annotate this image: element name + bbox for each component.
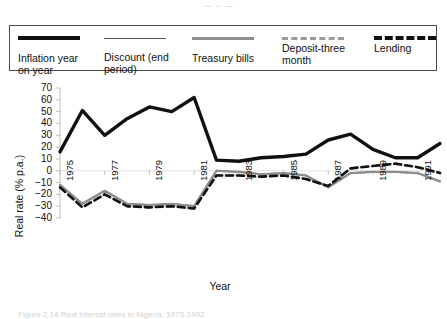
- x-tick-label: 1979: [153, 160, 164, 181]
- legend-item-lending: Lending: [368, 26, 434, 54]
- y-tick-label: 20: [22, 142, 52, 152]
- y-tick-label: 70: [22, 83, 52, 93]
- legend-label-treasury-bills: Treasury bills: [192, 52, 276, 64]
- legend-item-discount-end-period: Discount (end period): [98, 26, 186, 75]
- legend-item-treasury-bills: Treasury bills: [186, 26, 276, 64]
- legend-swatch-inflation-year-on-year: [18, 36, 80, 50]
- legend-swatch-discount-end-period: [104, 38, 166, 49]
- y-tick-label: 40: [22, 118, 52, 128]
- top-cutoff-text: — -- —: [205, 2, 260, 9]
- legend-label-inflation-year-on-year: Inflation year on year: [18, 52, 98, 76]
- x-tick-label: 1981: [198, 160, 209, 181]
- y-tick-label: 60: [22, 95, 52, 105]
- x-tick-label: 1985: [288, 160, 299, 181]
- y-tick-label: 10: [22, 154, 52, 164]
- x-tick-label: 1991: [422, 160, 433, 181]
- y-tick-label: 50: [22, 107, 52, 117]
- chart-canvas: [0, 78, 447, 293]
- y-tick-label: 0: [22, 166, 52, 176]
- series-inflation-year-on-year: [60, 97, 440, 161]
- legend-swatch-lending: [374, 36, 436, 40]
- figure-caption: Figure 2.14 Real interest rates in Niger…: [18, 310, 438, 319]
- y-tick-label: −10: [22, 178, 52, 188]
- y-tick-label: −40: [22, 213, 52, 223]
- y-tick-label: 30: [22, 130, 52, 140]
- legend-item-inflation-year-on-year: Inflation year on year: [10, 26, 98, 76]
- legend-label-discount-end-period: Discount (end period): [104, 51, 186, 75]
- x-tick-label: 1977: [109, 160, 120, 181]
- y-tick-label: −20: [22, 189, 52, 199]
- legend-label-lending: Lending: [374, 42, 434, 54]
- x-tick-label: 1983: [243, 160, 254, 181]
- legend-swatch-treasury-bills: [192, 37, 254, 50]
- x-tick-label: 1975: [64, 160, 75, 181]
- x-axis-title: Year: [170, 280, 270, 292]
- y-tick-label: −30: [22, 201, 52, 211]
- legend-item-deposit-three-month: Deposit-three month: [276, 26, 368, 66]
- x-tick-label: 1989: [377, 160, 388, 181]
- chart-plot-area: Real rate (% p.a.) Year 706050403020100−…: [0, 78, 447, 293]
- legend-swatch-deposit-three-month: [282, 37, 344, 40]
- legend-label-deposit-three-month: Deposit-three month: [282, 42, 368, 66]
- chart-legend: Inflation year on yearDiscount (end peri…: [9, 25, 437, 71]
- x-tick-label: 1987: [332, 160, 343, 181]
